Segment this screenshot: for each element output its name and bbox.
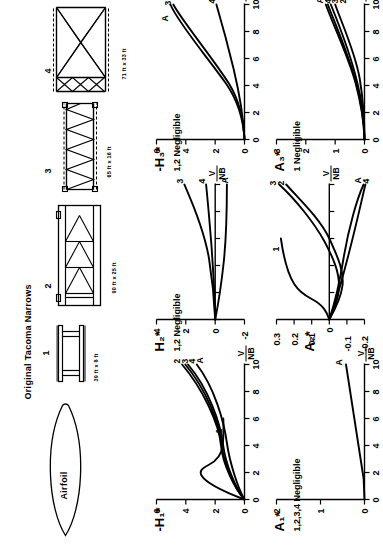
A1-xtick-4: 4 bbox=[371, 443, 380, 448]
H2-curve-label-4: 4 bbox=[197, 178, 206, 183]
figure-plate: Airfoil Original Tacoma Narrows 1 39 ft … bbox=[0, 0, 383, 551]
H1-curve-label-A: A bbox=[195, 357, 204, 363]
section-4-dims: 71 ft x 33 ft bbox=[120, 48, 126, 79]
airfoil-label: Airfoil bbox=[58, 471, 68, 499]
section-1-number: 1 bbox=[40, 350, 50, 355]
H1-curve-label-1: 1 bbox=[214, 428, 223, 433]
H3-unit-denominator: NB bbox=[246, 0, 255, 1]
H2-ytick-m2: -2 bbox=[240, 331, 249, 339]
A3-xtick-0: 0 bbox=[371, 137, 380, 142]
A3-xtick-8: 8 bbox=[371, 29, 380, 34]
H1-xtick-8: 8 bbox=[251, 389, 260, 394]
section-sketches: Airfoil Original Tacoma Narrows 1 39 ft … bbox=[0, 0, 128, 551]
section-4-number: 4 bbox=[42, 68, 52, 73]
H3-xtick-4: 4 bbox=[251, 83, 260, 88]
A2-ytick-01: 0.1 bbox=[307, 332, 316, 345]
A3-xtick-6: 6 bbox=[371, 56, 380, 61]
H3-ytick-4: 4 bbox=[181, 148, 190, 153]
section-3-shape bbox=[62, 99, 98, 193]
H1-xtick-2: 2 bbox=[251, 470, 260, 475]
A1-xtick-0: 0 bbox=[371, 497, 380, 502]
section-1-dims: 39 ft x 8 ft bbox=[92, 353, 98, 381]
A1-xtick-6: 6 bbox=[371, 416, 380, 421]
panel-A3: A₃* 1 Negligible 0 bbox=[268, 0, 380, 173]
panel-H3: -H₃* 1,2 Negligible 0 2 4 bbox=[148, 0, 260, 173]
section-2-number: 2 bbox=[42, 283, 52, 288]
A3-ytick-1: 1 bbox=[331, 148, 340, 153]
H3-ytick-2: 2 bbox=[211, 148, 220, 153]
H3-curve-label-3: 3 bbox=[163, 0, 172, 5]
H3-curve-label-4: 4 bbox=[207, 0, 216, 3]
A2-ytick-m01: -0.1 bbox=[343, 335, 352, 351]
section-3-dims: 65 ft x 16 ft bbox=[105, 146, 111, 177]
A2-curve-label-A: A bbox=[353, 177, 362, 183]
section-3-number: 3 bbox=[42, 168, 52, 173]
H3-curve-label-A: A bbox=[160, 15, 169, 21]
H1-ytick-2: 2 bbox=[211, 508, 220, 513]
H1-ytick-0: 0 bbox=[240, 508, 249, 513]
H2-ytick-2: 2 bbox=[181, 328, 190, 333]
H3-xtick-2: 2 bbox=[251, 110, 260, 115]
A1-xtick-8: 8 bbox=[371, 389, 380, 394]
A3-ytick-0: 0 bbox=[360, 148, 369, 153]
A2-ytick-0: 0 bbox=[325, 327, 334, 332]
section-4-shape bbox=[52, 3, 110, 95]
A3-unit-numerator: V bbox=[356, 0, 365, 1]
A3-xtick-4: 4 bbox=[371, 83, 380, 88]
H1-ytick-6: 6 bbox=[152, 508, 161, 513]
H3-xtick-6: 6 bbox=[251, 56, 260, 61]
H2-ytick-4: 4 bbox=[152, 328, 161, 333]
A3-xtick-2: 2 bbox=[371, 110, 380, 115]
H3-unit-numerator: V bbox=[236, 0, 245, 1]
A2-ytick-02: 0.2 bbox=[290, 332, 299, 345]
A3-curve-label-2: 2 bbox=[338, 0, 347, 3]
H2-ytick-0: 0 bbox=[211, 328, 220, 333]
A3-xaxis-unit: V NB bbox=[356, 0, 375, 1]
A2-curve-label-3: 3 bbox=[268, 180, 277, 185]
section-2-shape bbox=[56, 203, 103, 307]
tacoma-label: Original Tacoma Narrows bbox=[22, 284, 32, 399]
H3-ytick-6: 6 bbox=[152, 148, 161, 153]
A1-ytick-2: 2 bbox=[272, 508, 281, 513]
H3-xtick-8: 8 bbox=[251, 29, 260, 34]
H3-xtick-0: 0 bbox=[251, 137, 260, 142]
panel-A2: A₂* bbox=[268, 173, 380, 353]
A1-curve-label-A: A bbox=[334, 359, 343, 365]
A3-unit-denominator: NB bbox=[366, 0, 375, 1]
A1-xtick-2: 2 bbox=[371, 470, 380, 475]
A3-ytick-2: 2 bbox=[301, 148, 310, 153]
H1-xtick-4: 4 bbox=[251, 443, 260, 448]
H1-xtick-0: 0 bbox=[251, 497, 260, 502]
A2-curve-label-1: 1 bbox=[271, 246, 280, 251]
A1-ytick-0: 0 bbox=[360, 508, 369, 513]
H3-xaxis-unit: V NB bbox=[236, 0, 255, 1]
H1-xtick-6: 6 bbox=[251, 416, 260, 421]
A2-ytick-03: 0.3 bbox=[272, 332, 281, 345]
H1-ytick-4: 4 bbox=[181, 508, 190, 513]
airfoil-shape bbox=[34, 399, 96, 539]
figure-root: Airfoil Original Tacoma Narrows 1 39 ft … bbox=[0, 0, 383, 551]
panel-H1: -H₁* bbox=[148, 353, 260, 533]
section-1-shape bbox=[56, 323, 86, 383]
A3-ytick-3: 3 bbox=[272, 148, 281, 153]
A1-ytick-1: 1 bbox=[316, 508, 325, 513]
H2-curve-label-A: A bbox=[220, 177, 229, 183]
H3-ytick-0: 0 bbox=[240, 148, 249, 153]
section-2-dims: 90 ft x 25 ft bbox=[110, 262, 116, 293]
H2-curve-label-3: 3 bbox=[175, 178, 184, 183]
panel-A1: A₁* 1,2,3,4 Negligible 0 1 2 0 2 bbox=[268, 353, 380, 533]
panel-H2: H₂* 1,2 Negligible 4 2 bbox=[148, 173, 260, 353]
A2-ytick-m02: -0.2 bbox=[360, 335, 369, 351]
